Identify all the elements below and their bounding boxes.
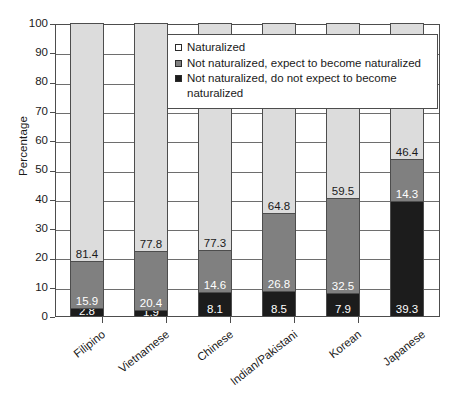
legend-item-do-not-expect: Not naturalized, do not expect to become… — [175, 71, 430, 100]
y-tick-mark-0 — [50, 317, 55, 318]
y-tick-label-90: 90 — [14, 47, 48, 59]
legend-swatch-naturalized-icon — [175, 44, 182, 51]
gridline-50 — [56, 172, 439, 173]
legend: Naturalized Not naturalized, expect to b… — [167, 34, 438, 109]
x-tick-mark-4 — [294, 317, 295, 323]
y-tick-label-10: 10 — [14, 282, 48, 294]
bar-value-label: 1.9 — [135, 310, 167, 316]
y-tick-label-0: 0 — [14, 311, 48, 323]
y-tick-label-80: 80 — [14, 76, 48, 88]
bar-segment-expect: 14.3 — [390, 159, 424, 201]
gridline-10 — [56, 289, 439, 290]
bar-value-label: 32.5 — [327, 280, 359, 292]
legend-label: Not naturalized, do not expect to become… — [187, 71, 397, 100]
legend-swatch-do-not-expect-icon — [175, 75, 182, 82]
stacked-bar-chart: Percentage 100 90 80 70 60 50 40 30 20 1… — [0, 0, 464, 399]
bar-vietnamese: 77.8 20.4 1.9 — [134, 23, 168, 316]
bar-segment-naturalized: 77.8 — [134, 23, 168, 251]
y-tick-label-40: 40 — [14, 194, 48, 206]
y-tick-label-100: 100 — [14, 18, 48, 30]
bar-value-label: 14.3 — [391, 188, 423, 200]
bar-segment-expect: 20.4 — [134, 251, 168, 311]
legend-label: Not naturalized, expect to become natura… — [187, 56, 421, 71]
gridline-20 — [56, 259, 439, 260]
bar-value-label: 77.8 — [135, 238, 167, 250]
bar-segment-expect: 32.5 — [326, 198, 360, 293]
bar-segment-do-not-expect: 8.5 — [262, 291, 296, 316]
plot-area: 81.4 15.9 2.8 77.8 20.4 1.9 77.3 — [55, 24, 440, 317]
gridline-40 — [56, 201, 439, 202]
x-tick-mark-3 — [230, 317, 231, 323]
bar-value-label: 15.9 — [71, 295, 103, 307]
legend-item-expect: Not naturalized, expect to become natura… — [175, 56, 430, 71]
bar-value-label: 26.8 — [263, 278, 295, 290]
y-tick-label-50: 50 — [14, 164, 48, 176]
bar-value-label: 20.4 — [135, 297, 167, 309]
bar-segment-expect: 14.6 — [198, 250, 232, 293]
x-tick-mark-2 — [166, 317, 167, 323]
bar-value-label: 77.3 — [199, 237, 231, 249]
bar-value-label: 7.9 — [327, 303, 359, 315]
legend-item-naturalized: Naturalized — [175, 40, 430, 55]
bar-value-label: 2.8 — [71, 308, 103, 316]
gridline-70 — [56, 113, 439, 114]
legend-label: Naturalized — [187, 40, 245, 55]
bar-value-label: 64.8 — [263, 200, 295, 212]
legend-swatch-expect-icon — [175, 60, 182, 67]
bar-segment-do-not-expect: 7.9 — [326, 293, 360, 316]
y-tick-label-30: 30 — [14, 223, 48, 235]
bar-segment-expect: 26.8 — [262, 213, 296, 292]
bar-value-label: 59.5 — [327, 185, 359, 197]
gridline-30 — [56, 230, 439, 231]
y-tick-label-60: 60 — [14, 135, 48, 147]
bar-segment-do-not-expect: 2.8 — [70, 308, 104, 316]
bar-value-label: 39.3 — [391, 303, 423, 315]
bar-value-label: 46.4 — [391, 146, 423, 158]
bar-segment-do-not-expect: 8.1 — [198, 292, 232, 316]
bar-segment-naturalized: 81.4 — [70, 23, 104, 262]
bar-value-label: 8.5 — [263, 303, 295, 315]
bar-segment-do-not-expect: 39.3 — [390, 201, 424, 316]
bar-value-label: 8.1 — [199, 303, 231, 315]
x-tick-mark-1 — [102, 317, 103, 323]
y-tick-label-70: 70 — [14, 106, 48, 118]
bar-value-label: 14.6 — [199, 279, 231, 291]
bar-value-label: 81.4 — [71, 248, 103, 260]
x-tick-mark-5 — [358, 317, 359, 323]
bar-filipino: 81.4 15.9 2.8 — [70, 23, 104, 316]
bar-segment-do-not-expect: 1.9 — [134, 310, 168, 316]
bar-segment-expect: 15.9 — [70, 261, 104, 308]
y-tick-label-20: 20 — [14, 252, 48, 264]
gridline-60 — [56, 142, 439, 143]
